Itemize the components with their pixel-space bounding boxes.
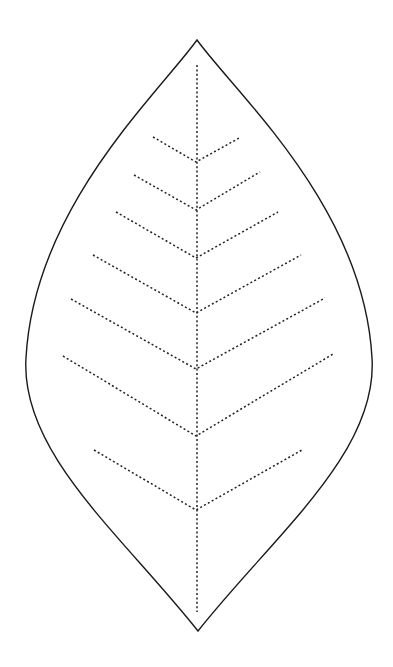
leaf-illustration	[0, 0, 393, 667]
leaf-outline	[26, 40, 372, 631]
leaf-drawing	[0, 0, 393, 667]
